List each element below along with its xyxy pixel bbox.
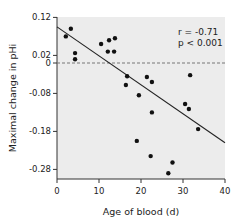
data-point [188, 73, 192, 77]
x-tick-label: 10 [94, 186, 105, 196]
x-axis-label: Age of blood (d) [103, 206, 179, 217]
data-point [106, 49, 110, 53]
annotation-r: r = -0.71 [178, 27, 218, 37]
y-tick-label: 0 [46, 58, 51, 68]
y-tick-label: -0.18 [29, 126, 51, 136]
data-point [148, 154, 152, 158]
data-point [107, 38, 111, 42]
y-tick-label: 0.12 [32, 12, 51, 22]
data-point [112, 49, 116, 53]
data-point [187, 107, 191, 111]
x-tick-label: 40 [220, 186, 231, 196]
y-tick-label: -0.08 [29, 88, 51, 98]
data-point [145, 75, 149, 79]
data-point [64, 34, 68, 38]
data-point [183, 102, 187, 106]
data-point [137, 93, 141, 97]
data-point [150, 110, 154, 114]
y-tick-label: -0.28 [29, 164, 51, 174]
data-point [166, 171, 170, 175]
data-point [73, 57, 77, 61]
data-point [124, 83, 128, 87]
data-point [113, 36, 117, 40]
data-point [69, 27, 73, 31]
data-point [135, 139, 139, 143]
data-point [150, 80, 154, 84]
x-tick-label: 20 [136, 186, 147, 196]
data-point [170, 160, 174, 164]
data-point [73, 51, 77, 55]
data-point [99, 42, 103, 46]
chart-svg: 0102030400.120.020-0.08-0.18-0.28 r = -0… [0, 0, 239, 223]
x-tick-label: 0 [54, 186, 59, 196]
data-point [125, 74, 129, 78]
data-point [196, 127, 200, 131]
x-tick-label: 30 [178, 186, 189, 196]
annotation-p: p < 0.001 [178, 38, 223, 48]
scatter-chart: 0102030400.120.020-0.08-0.18-0.28 r = -0… [0, 0, 239, 223]
y-axis-label: Maximal change in pHi [7, 44, 18, 153]
